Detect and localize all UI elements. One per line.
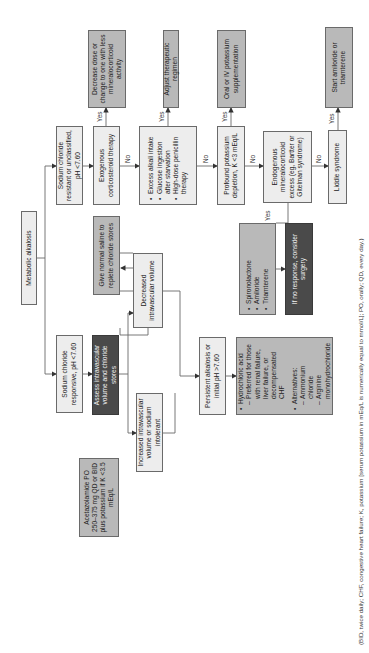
node-give-saline-label: Give normal saline to replete chloride s…: [98, 220, 114, 291]
node-decrease-dose-label: Decrease dose or change to one with less…: [91, 34, 124, 104]
list-item: Hydrochloric acid: [237, 341, 245, 404]
node-exogenous-corticosteroid-label: Exogenous corticosteroid therapy: [98, 130, 114, 201]
node-endogenous-mineralocorticoid: Endogenous mineralocorticoid excess (eg,…: [263, 131, 312, 203]
node-increased-volume: Increased intravascular volume or sodium…: [136, 393, 163, 472]
node-nacl-resistant-label: Sodium chloride resistant or unclassifie…: [57, 130, 82, 201]
node-no-response-surgery: If no response, consider surgery: [285, 223, 313, 315]
node-endogenous-mineralocorticoid-label: Endogenous mineralocorticoid excess (eg,…: [271, 135, 304, 199]
node-start-amiloride-label: Start amiloride or triamterene: [331, 31, 347, 104]
node-liddle-syndrome: Liddle syndrome: [328, 130, 347, 204]
node-acetazolamide: Acetazolamide PO 250–375 mg QD or BID pl…: [79, 458, 119, 537]
list-item: Spironolactone: [245, 260, 253, 304]
node-decreased-volume-label: Decreased intravascular volume: [140, 257, 156, 324]
node-acetazolamide-label: Acetazolamide PO 250–375 mg QD or BID pl…: [83, 462, 116, 533]
edge-label-no: No: [249, 155, 256, 163]
connector-lines: [0, 0, 369, 653]
flowchart-canvas: Metabolic alkalosis Sodium chloride resi…: [0, 0, 369, 653]
edge-label-no: No: [124, 155, 131, 163]
list-item: Alternatives:: [291, 341, 299, 404]
node-oral-iv-potassium-label: Oral or IV potassium supplementation: [223, 34, 239, 104]
node-start-amiloride: Start amiloride or triamterene: [325, 27, 353, 108]
node-diuretics: Spironolactone Amiloride Triamterene: [239, 223, 276, 315]
node-increased-volume-label: Increased intravascular volume or sodium…: [137, 397, 162, 468]
excess-alkali-list: Excess alkali intake Glucose ingestion a…: [147, 130, 188, 201]
edge-label-yes: Yes: [96, 112, 103, 122]
list-item: Glucose ingestion after starvation: [156, 130, 172, 194]
edge-label-no: No: [315, 155, 322, 163]
footnote: (BID, twice daily; CHF, congestive heart…: [357, 5, 364, 645]
node-profound-potassium: Profound potassium depletion, K <3 mEq/L: [217, 126, 245, 205]
list-subitem: Ammonium chloride: [299, 341, 315, 404]
list-item: High-dose penicillin therapy: [172, 130, 188, 194]
edge-label-yes: Yes: [158, 112, 165, 122]
edge-label-yes: Yes: [264, 211, 271, 221]
list-subitem: Preferred for those with renal failure, …: [245, 341, 286, 404]
node-oral-iv-potassium: Oral or IV potassium supplementation: [217, 30, 246, 108]
edge-label-yes: Yes: [328, 114, 335, 124]
node-excess-alkali: Excess alkali intake Glucose ingestion a…: [139, 126, 197, 205]
node-hydrochloric-acid: Hydrochloric acid Preferred for those wi…: [236, 337, 333, 415]
root-node-label: Metabolic alkalosis: [25, 230, 33, 285]
node-liddle-syndrome-label: Liddle syndrome: [333, 143, 341, 191]
diuretics-list: Spironolactone Amiloride Triamterene: [245, 260, 270, 311]
list-item: Excess alkali intake: [147, 130, 155, 194]
list-item: Amiloride: [253, 260, 261, 304]
hydrochloric-acid-list: Hydrochloric acid Preferred for those wi…: [237, 341, 332, 411]
node-nacl-responsive-label: Sodium chloride responsive, pH <7.60: [61, 339, 77, 409]
edge-label-no: No: [202, 155, 209, 163]
edge-label-yes: Yes: [221, 112, 228, 122]
list-subitem: Arginine monohydrochloride: [315, 341, 331, 404]
node-give-saline: Give normal saline to replete chloride s…: [93, 216, 120, 295]
node-persistent-alkalosis: Persistent alkalosis or initial pH >7.60: [199, 337, 226, 415]
node-assess-volume: Assess intravascular volume and chloride…: [92, 335, 119, 415]
root-node-metabolic-alkalosis: Metabolic alkalosis: [21, 211, 37, 305]
node-adjust-regimen-label: Adjust therapeutic regimen: [163, 34, 179, 104]
list-item: Triamterene: [262, 260, 270, 304]
node-profound-potassium-label: Profound potassium depletion, K <3 mEq/L: [223, 130, 239, 201]
node-decrease-dose: Decrease dose or change to one with less…: [88, 30, 126, 108]
node-assess-volume-label: Assess intravascular volume and chloride…: [93, 339, 118, 411]
node-persistent-alkalosis-label: Persistent alkalosis or initial pH >7.60: [204, 341, 220, 411]
node-nacl-resistant: Sodium chloride resistant or unclassifie…: [56, 126, 83, 205]
node-exogenous-corticosteroid: Exogenous corticosteroid therapy: [93, 126, 120, 205]
node-decreased-volume: Decreased intravascular volume: [133, 253, 163, 328]
node-adjust-regimen: Adjust therapeutic regimen: [163, 30, 179, 108]
node-no-response-label: If no response, consider surgery: [291, 227, 307, 311]
node-nacl-responsive: Sodium chloride responsive, pH <7.60: [56, 335, 83, 413]
